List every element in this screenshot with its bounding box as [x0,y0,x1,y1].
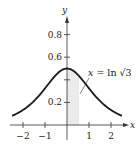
y-tick-label: 0.8 [48,30,63,40]
y-axis-label: y [61,5,68,15]
x-tick-label: 1 [86,131,92,141]
shaded-region [67,69,79,126]
x-tick-label: 2 [108,131,114,141]
chart: x y −2−112 0.20.60.8 x = ln √3 [0,0,136,144]
annotation-eq: = ln [93,67,119,78]
x-axis-label: x [130,120,135,130]
x-tick-label: −1 [38,131,51,141]
x-tick-label: −2 [16,131,29,141]
y-tick-label: 0.6 [48,52,63,62]
x-axis-arrow-icon [123,123,129,127]
annotation-label: x = ln √3 [88,67,132,78]
y-tick-label: 0.2 [48,97,62,107]
y-axis-arrow-icon [65,16,69,23]
annotation-root: √3 [120,67,132,78]
